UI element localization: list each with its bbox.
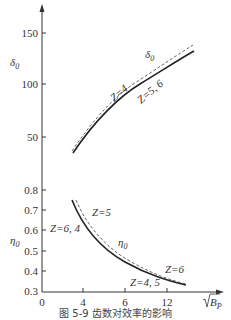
chart: 150 100 50 0.8 0.7 0.6 0.5 0.4 0.3 0 4 6…: [0, 0, 231, 320]
y-tick-label: 0.7: [24, 204, 38, 216]
annotation-z45: Z=4, 5: [130, 276, 161, 288]
y-tick-label: 0.8: [24, 184, 38, 196]
y-tick-label: 0.3: [24, 285, 38, 297]
y-axis-label-eta: η0: [10, 234, 19, 249]
y-axis-label-delta: δ0: [10, 56, 19, 71]
annotation-eta: η0: [118, 236, 127, 251]
y-tick-label: 50: [27, 131, 39, 143]
annotation-z56: Z=5, 6: [135, 77, 166, 106]
y-tick-label: 0.4: [24, 265, 38, 277]
annotation-z4: Z=4: [108, 82, 131, 104]
y-axis-arrow-icon: [40, 4, 45, 12]
annotation-z6: Z=6: [165, 263, 185, 275]
figure-caption: 图 5-9 齿数对效率的影响: [0, 305, 231, 320]
y-ticks-bottom: [42, 190, 46, 271]
y-tick-label: 0.6: [24, 224, 38, 236]
delta-curve-z4: [72, 45, 193, 151]
delta-curve-z56: [73, 51, 194, 153]
y-tick-label: 100: [22, 78, 39, 90]
x-ticks: [83, 288, 167, 292]
y-ticks-top: [42, 33, 46, 137]
annotation-z5: Z=5: [92, 206, 112, 218]
annotation-z64: Z=6, 4: [50, 222, 81, 234]
y-tick-label: 150: [22, 27, 39, 39]
annotation-delta: δ0: [145, 48, 154, 63]
y-tick-label: 0.5: [24, 245, 38, 257]
